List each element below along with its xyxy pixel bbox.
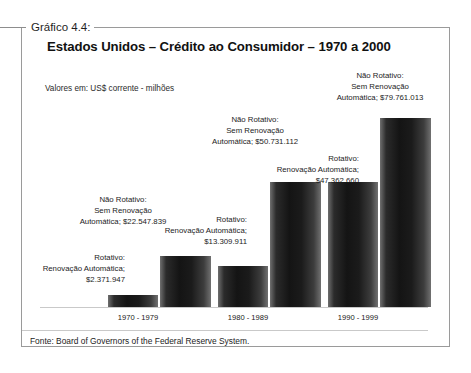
- source-note: Fonte: Board of Governors of the Federal…: [30, 336, 249, 346]
- bar-rotativo-1990-1999[interactable]: [328, 182, 378, 307]
- callout-line-1: Não Rotativo:: [316, 70, 444, 81]
- callout-line-2: Sem Renovação: [316, 81, 444, 92]
- callout-line-3: Automática; $50.731.112: [191, 136, 319, 147]
- bar-nao-rotativo-1980-1989[interactable]: [270, 182, 321, 307]
- category-label-1990-1999: 1990 - 1999: [302, 313, 414, 322]
- bar-rotativo-1980-1989[interactable]: [218, 266, 268, 307]
- callout-line-3: $13.309.911: [150, 236, 247, 247]
- footer-divider: [22, 330, 428, 331]
- callout-rotativo-1990-1999: Rotativo: Renovação Automática; $47.362.…: [262, 153, 359, 187]
- callout-nao-rotativo-1990-1999: Não Rotativo: Sem Renovação Automática; …: [316, 70, 444, 104]
- callout-line-2: Sem Renovação: [191, 125, 319, 136]
- callout-line-3: $47.362.660: [262, 175, 359, 186]
- callout-line-1: Não Rotativo:: [62, 194, 184, 205]
- callout-line-1: Rotativo:: [262, 153, 359, 164]
- callout-line-1: Rotativo:: [10, 252, 125, 263]
- callout-line-3: Automática; $79.761.013: [316, 92, 444, 103]
- figure-caption-number: Gráfico 4.4:: [26, 18, 94, 36]
- category-label-1980-1989: 1980 - 1989: [192, 313, 304, 322]
- callout-line-2: Renovação Automática;: [10, 263, 125, 274]
- callout-line-3: $2.371.947: [10, 274, 125, 285]
- callout-nao-rotativo-1980-1989: Não Rotativo: Sem Renovação Automática; …: [191, 114, 319, 148]
- bar-nao-rotativo-1970-1979[interactable]: [160, 256, 211, 307]
- callout-rotativo-1980-1989: Rotativo: Renovação Automática; $13.309.…: [150, 214, 247, 248]
- x-axis-line: [40, 307, 428, 308]
- callout-line-1: Rotativo:: [150, 214, 247, 225]
- callout-line-2: Renovação Automática;: [262, 164, 359, 175]
- bar-rotativo-1970-1979[interactable]: [108, 295, 158, 307]
- callout-line-2: Renovação Automática;: [150, 225, 247, 236]
- callout-rotativo-1970-1979: Rotativo: Renovação Automática; $2.371.9…: [10, 252, 125, 286]
- category-label-1970-1979: 1970 - 1979: [82, 313, 194, 322]
- bar-nao-rotativo-1990-1999[interactable]: [380, 118, 431, 307]
- callout-line-1: Não Rotativo:: [191, 114, 319, 125]
- caption-rule-left: [0, 27, 26, 28]
